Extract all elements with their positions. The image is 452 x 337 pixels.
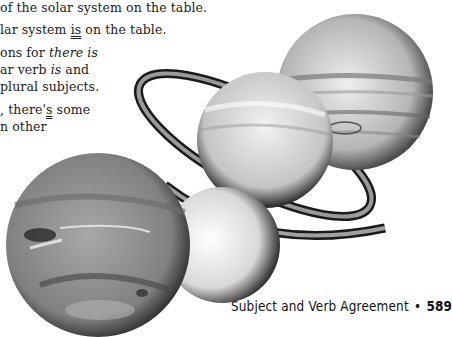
neptune-planet <box>6 153 190 337</box>
chapter-title: Subject and Verb Agreement <box>231 298 409 314</box>
page-number: 589 <box>426 298 452 314</box>
separator-bullet: • <box>414 298 421 314</box>
page-footer: Subject and Verb Agreement•589 <box>231 298 452 314</box>
